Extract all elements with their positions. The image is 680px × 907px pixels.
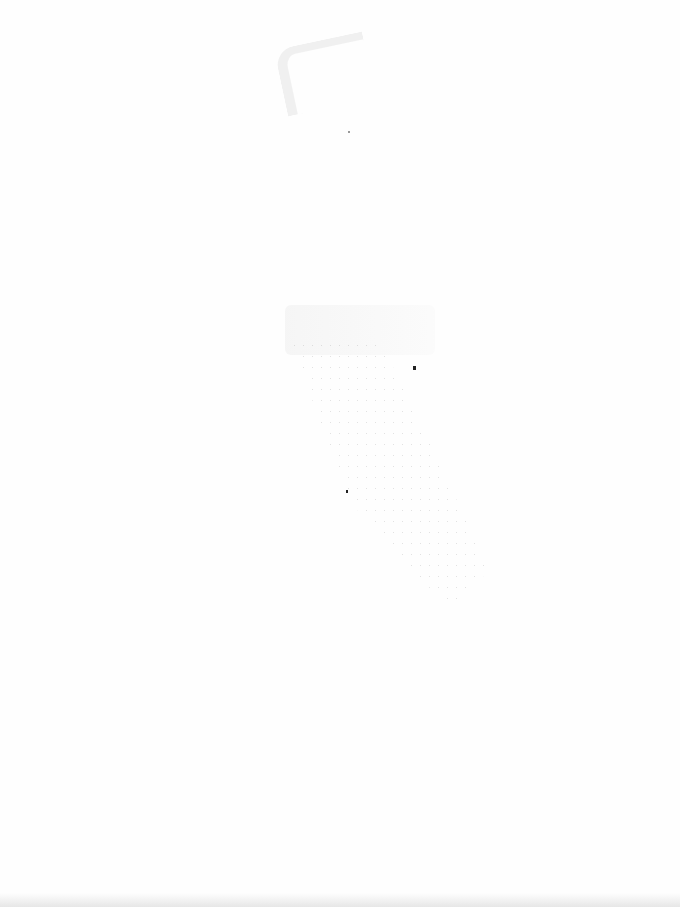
ink-dot	[348, 131, 350, 133]
speckle-noise	[290, 340, 490, 610]
ink-dot	[413, 366, 416, 370]
blank-scanned-page	[0, 0, 680, 907]
bleed-through-artifact-top	[274, 31, 376, 116]
scan-edge-shadow	[0, 893, 680, 907]
ink-dot	[346, 490, 348, 493]
